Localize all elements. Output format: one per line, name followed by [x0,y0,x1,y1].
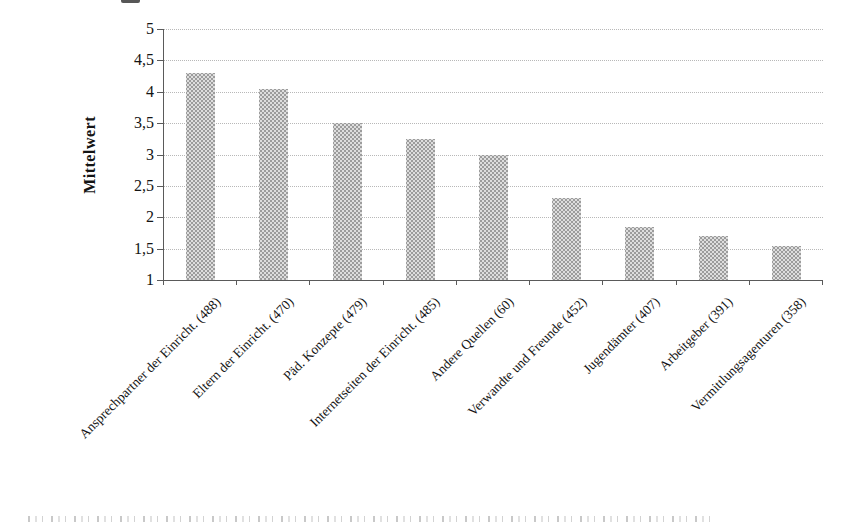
x-axis-tick [676,280,677,285]
y-tick-label: 1 [94,272,154,288]
bar-7 [625,227,654,280]
x-axis-tick [529,280,530,285]
x-axis-tick [822,280,823,285]
bar-4 [406,139,435,280]
y-axis-tick [157,155,163,156]
x-axis-tick [383,280,384,285]
y-axis-tick [157,92,163,93]
y-tick-label: 5 [94,21,154,37]
bar-5 [479,155,508,281]
y-tick-label: 1,5 [94,240,154,256]
y-tick-label: 2,5 [94,178,154,194]
bar-1 [186,73,215,280]
gridline-5 [164,29,823,30]
y-tick-label: 2 [94,209,154,225]
figure-bar-chart: Mittelwert 54,543,532,521,51Ansprechpart… [0,0,841,522]
bar-9 [772,246,801,281]
x-axis-tick [236,280,237,285]
y-axis-tick [157,249,163,250]
y-axis-tick [157,123,163,124]
x-axis-tick [749,280,750,285]
cropped-text-fragment-top [121,0,140,3]
bar-2 [259,89,288,280]
gridline-4_5 [164,60,823,61]
x-axis-tick [602,280,603,285]
y-tick-label: 4 [94,83,154,99]
bar-6 [552,198,581,280]
y-tick-label: 4,5 [94,52,154,68]
y-axis-tick [157,217,163,218]
cropped-caption-strip-bottom [28,516,710,522]
y-tick-label: 3 [94,146,154,162]
bar-8 [699,236,728,280]
y-tick-label: 3,5 [94,115,154,131]
bar-3 [333,123,362,280]
x-axis-tick [163,280,164,285]
x-axis-tick [456,280,457,285]
y-axis-tick [157,60,163,61]
y-axis-tick [157,29,163,30]
plot-area [163,29,823,281]
y-axis-tick [157,186,163,187]
x-axis-tick [309,280,310,285]
